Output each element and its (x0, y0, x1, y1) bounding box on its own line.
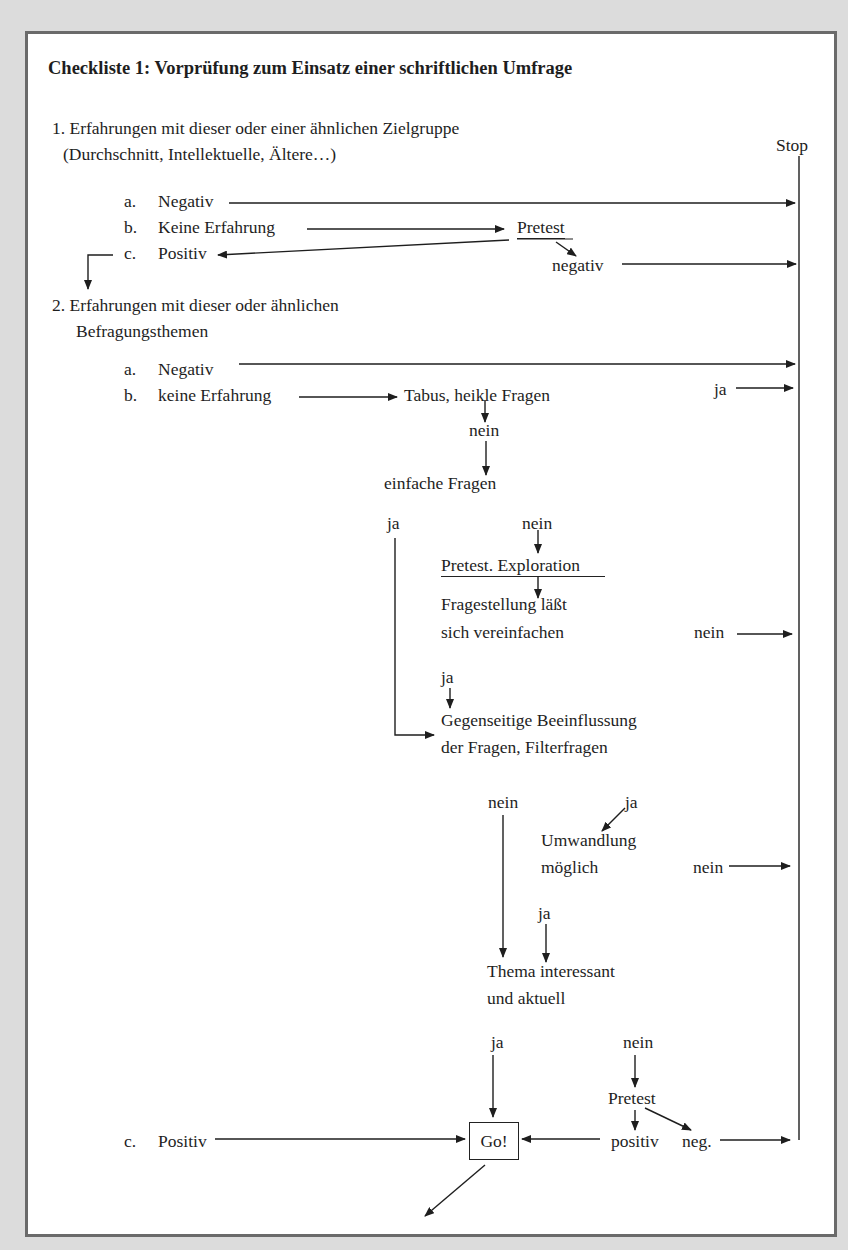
s2-item-b-marker: b. (124, 385, 137, 405)
pretest-exploration-node: Pretest. Exploration (441, 555, 605, 577)
umwandlung-line1: Umwandlung (541, 830, 636, 850)
umwandlung-ja-label: ja (538, 903, 551, 923)
s1-item-a-label: Negativ (158, 191, 213, 211)
thema-line1: Thema interessant (487, 961, 615, 981)
s1-item-c-label: Positiv (158, 243, 207, 263)
s1-item-b-label: Keine Erfahrung (158, 217, 275, 237)
section1-subheading: (Durchschnitt, Intellektuelle, Ältere…) (63, 144, 336, 164)
fragestellung-line1: Fragestellung läßt (441, 594, 567, 614)
gegenseitige-line1: Gegenseitige Beeinflussung (441, 710, 637, 730)
thema-nein-label: nein (623, 1032, 653, 1052)
gegenseitige-line2: der Fragen, Filterfragen (441, 737, 608, 757)
s2-item-a-marker: a. (124, 359, 136, 379)
tabus-ja-label: ja (714, 379, 727, 399)
gegenseitige-nein-label: nein (488, 792, 518, 812)
s1-item-c-marker: c. (124, 243, 136, 263)
umwandlung-line2: möglich (541, 857, 598, 877)
section2-heading: 2. Erfahrungen mit dieser oder ähnlichen (52, 295, 339, 315)
neg-label: neg. (682, 1131, 712, 1151)
s2-item-a-label: Negativ (158, 359, 213, 379)
stop-label: Stop (776, 135, 808, 155)
fragestellung-ja-label: ja (441, 667, 454, 687)
tabus-node: Tabus, heikle Fragen (404, 385, 550, 405)
s1-pretest-node: Pretest (517, 217, 565, 239)
s2-item-c-label: Positiv (158, 1131, 207, 1151)
page-title: Checkliste 1: Vorprüfung zum Einsatz ein… (48, 58, 572, 78)
einfache-ja-label: ja (387, 513, 400, 533)
tabus-nein-label: nein (469, 420, 499, 440)
s1-item-a-marker: a. (124, 191, 136, 211)
s1-negativ-label: negativ (552, 255, 604, 275)
einfache-nein-label: nein (522, 513, 552, 533)
section2-subheading: Befragungsthemen (76, 321, 208, 341)
positiv-label: positiv (611, 1131, 659, 1151)
s1-item-b-marker: b. (124, 217, 137, 237)
umwandlung-nein-label: nein (693, 857, 723, 877)
thema-ja-label: ja (491, 1032, 504, 1052)
go-label: Go! (480, 1131, 507, 1152)
gegenseitige-ja-label: ja (625, 792, 638, 812)
fragestellung-line2: sich vereinfachen (441, 622, 564, 642)
thema-line2: und aktuell (487, 988, 565, 1008)
s2-item-b-label: keine Erfahrung (158, 385, 271, 405)
s2-item-c-marker: c. (124, 1131, 136, 1151)
section1-heading: 1. Erfahrungen mit dieser oder einer ähn… (52, 118, 459, 138)
go-box: Go! (469, 1122, 519, 1160)
einfache-fragen-node: einfache Fragen (384, 473, 496, 493)
fragestellung-nein-label: nein (694, 622, 724, 642)
pretest2-node: Pretest (608, 1088, 656, 1108)
